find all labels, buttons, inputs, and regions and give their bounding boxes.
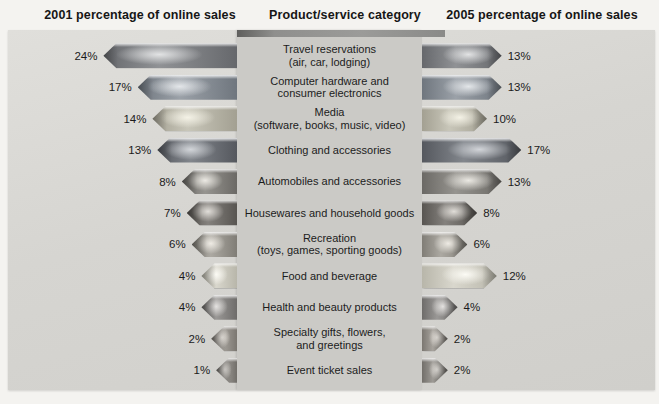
chart-row: 7%Housewares and household goods8% xyxy=(8,197,655,228)
right-bar xyxy=(422,232,467,257)
right-axis-header: 2005 percentage of online sales xyxy=(432,8,652,22)
category-zone: Event ticket sales xyxy=(237,364,422,377)
category-zone: Food and beverage xyxy=(237,270,422,283)
right-bar-zone: 4% xyxy=(422,295,655,320)
right-value-label: 10% xyxy=(493,113,516,125)
left-value-label: 6% xyxy=(169,238,186,250)
right-value-label: 2% xyxy=(454,364,471,376)
left-value-label: 1% xyxy=(193,364,210,376)
left-bar-zone: 2% xyxy=(8,326,237,351)
chart-row: 17%Computer hardware and consumer electr… xyxy=(8,71,655,102)
left-bar-zone: 8% xyxy=(8,169,237,194)
right-bar-zone: 2% xyxy=(422,358,655,383)
chart-row: 2%Specialty gifts, flowers, and greeting… xyxy=(8,323,655,354)
right-value-label: 13% xyxy=(508,81,531,93)
category-column-header: Product/service category xyxy=(245,8,445,22)
category-zone: Health and beauty products xyxy=(237,301,422,314)
right-bar xyxy=(422,43,502,68)
left-value-label: 4% xyxy=(179,270,196,282)
right-value-label: 12% xyxy=(503,270,526,282)
chart-row: 8%Automobiles and accessories13% xyxy=(8,166,655,197)
chart-panel: 24%Travel reservations (air, car, lodgin… xyxy=(8,30,655,390)
right-bar-zone: 6% xyxy=(422,232,655,257)
category-label: Media (software, books, music, video) xyxy=(250,106,410,131)
left-bar-zone: 13% xyxy=(8,138,237,163)
left-bar xyxy=(182,169,237,194)
left-bar xyxy=(187,200,237,225)
right-bar xyxy=(422,263,497,288)
category-zone: Recreation (toys, games, sporting goods) xyxy=(237,232,422,257)
category-label: Food and beverage xyxy=(278,270,381,283)
category-label: Clothing and accessories xyxy=(264,144,395,157)
category-label: Travel reservations (air, car, lodging) xyxy=(279,43,380,68)
left-bar-zone: 7% xyxy=(8,200,237,225)
category-zone: Housewares and household goods xyxy=(237,207,422,220)
right-bar xyxy=(422,295,458,320)
right-bar xyxy=(422,138,521,163)
left-axis-header: 2001 percentage of online sales xyxy=(30,8,250,22)
left-bar-zone: 14% xyxy=(8,106,237,131)
right-bar xyxy=(422,75,502,100)
right-value-label: 17% xyxy=(527,144,550,156)
chart-row: 24%Travel reservations (air, car, lodgin… xyxy=(8,40,655,71)
left-bar xyxy=(192,232,237,257)
chart-row: 4%Health and beauty products4% xyxy=(8,292,655,323)
left-bar xyxy=(201,263,237,288)
right-value-label: 2% xyxy=(454,333,471,345)
right-value-label: 4% xyxy=(464,301,481,313)
left-value-label: 17% xyxy=(109,81,132,93)
chart-row: 4%Food and beverage12% xyxy=(8,260,655,291)
category-label: Health and beauty products xyxy=(258,301,401,314)
left-value-label: 4% xyxy=(179,301,196,313)
right-bar-zone: 12% xyxy=(422,263,655,288)
right-bar xyxy=(422,358,448,383)
left-value-label: 24% xyxy=(74,50,97,62)
category-zone: Automobiles and accessories xyxy=(237,175,422,188)
left-bar xyxy=(138,75,237,100)
left-bar-zone: 4% xyxy=(8,295,237,320)
right-value-label: 13% xyxy=(508,50,531,62)
left-bar-zone: 17% xyxy=(8,75,237,100)
category-label: Recreation (toys, games, sporting goods) xyxy=(253,232,406,257)
chart-row: 6%Recreation (toys, games, sporting good… xyxy=(8,229,655,260)
chart-row: 14%Media (software, books, music, video)… xyxy=(8,103,655,134)
left-bar xyxy=(201,295,237,320)
category-zone: Media (software, books, music, video) xyxy=(237,106,422,131)
left-value-label: 7% xyxy=(164,207,181,219)
category-zone: Computer hardware and consumer electroni… xyxy=(237,75,422,100)
category-label: Automobiles and accessories xyxy=(254,175,405,188)
right-bar xyxy=(422,169,502,194)
category-label: Housewares and household goods xyxy=(241,207,418,220)
chart-row: 1%Event ticket sales2% xyxy=(8,355,655,386)
left-value-label: 13% xyxy=(128,144,151,156)
right-bar xyxy=(422,200,477,225)
left-bar xyxy=(103,43,237,68)
category-label: Computer hardware and consumer electroni… xyxy=(266,75,393,100)
category-label: Event ticket sales xyxy=(283,364,377,377)
left-bar-zone: 4% xyxy=(8,263,237,288)
right-value-label: 13% xyxy=(508,176,531,188)
left-value-label: 14% xyxy=(123,113,146,125)
right-bar xyxy=(422,326,448,351)
rows: 24%Travel reservations (air, car, lodgin… xyxy=(8,37,655,386)
right-bar-zone: 13% xyxy=(422,169,655,194)
category-zone: Clothing and accessories xyxy=(237,144,422,157)
left-bar-zone: 1% xyxy=(8,358,237,383)
figure: 2001 percentage of online sales Product/… xyxy=(0,0,659,404)
right-bar-zone: 13% xyxy=(422,43,655,68)
left-value-label: 2% xyxy=(189,333,206,345)
left-bar xyxy=(152,106,237,131)
right-bar xyxy=(422,106,487,131)
right-bar-zone: 2% xyxy=(422,326,655,351)
left-value-label: 8% xyxy=(159,176,176,188)
right-value-label: 6% xyxy=(473,238,490,250)
right-value-label: 8% xyxy=(483,207,500,219)
right-bar-zone: 17% xyxy=(422,138,655,163)
left-bar-zone: 6% xyxy=(8,232,237,257)
left-bar-zone: 24% xyxy=(8,43,237,68)
category-zone: Travel reservations (air, car, lodging) xyxy=(237,43,422,68)
right-bar-zone: 10% xyxy=(422,106,655,131)
category-label: Specialty gifts, flowers, and greetings xyxy=(270,326,390,351)
left-bar xyxy=(157,138,237,163)
category-zone: Specialty gifts, flowers, and greetings xyxy=(237,326,422,351)
